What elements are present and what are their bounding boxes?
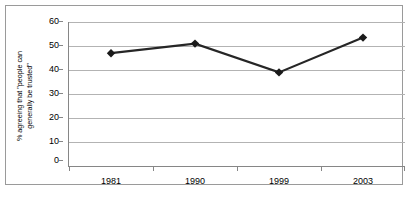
y-tick-mark-60	[59, 21, 63, 22]
plot-area: 1981 1990 1999 2003	[68, 22, 405, 167]
x-tick-label-1990: 1990	[153, 176, 237, 186]
y-tick-label-40: 40	[37, 65, 59, 74]
data-point-1999	[275, 68, 283, 76]
data-point-1990	[191, 39, 199, 47]
y-tick-label-50: 50	[37, 41, 59, 50]
chart-frame: % agreeing that "people can generally be…	[5, 5, 403, 185]
y-tick-label-0: 0	[37, 156, 59, 165]
y-axis-title-line-1: % agreeing that "people can	[15, 21, 25, 171]
y-tick-mark-10	[59, 141, 63, 142]
x-tick-mark-3	[321, 167, 322, 171]
y-tick-mark-0	[59, 160, 63, 161]
x-tick-mark-4	[404, 167, 405, 171]
x-tick-mark-2	[237, 167, 238, 171]
x-tick-mark-0	[69, 167, 70, 171]
data-point-2003	[359, 33, 367, 41]
chart-screenshot: % agreeing that "people can generally be…	[0, 0, 409, 197]
y-tick-mark-30	[59, 93, 63, 94]
x-tick-label-2003: 2003	[321, 176, 405, 186]
data-point-1981	[107, 49, 115, 57]
series-line-trust	[69, 22, 405, 167]
y-axis-title-line-2: generally be trusted"	[25, 21, 35, 171]
y-tick-mark-20	[59, 117, 63, 118]
y-tick-label-60: 60	[37, 17, 59, 26]
series-polyline	[111, 38, 363, 73]
y-tick-mark-50	[59, 45, 63, 46]
y-tick-label-30: 30	[37, 89, 59, 98]
clipped-caption-region	[0, 190, 409, 197]
x-tick-label-1981: 1981	[69, 176, 153, 186]
x-tick-mark-1	[153, 167, 154, 171]
y-tick-mark-40	[59, 69, 63, 70]
y-tick-label-10: 10	[37, 137, 59, 146]
series-markers	[107, 33, 367, 76]
x-tick-label-1999: 1999	[237, 176, 321, 186]
y-tick-label-20: 20	[37, 113, 59, 122]
